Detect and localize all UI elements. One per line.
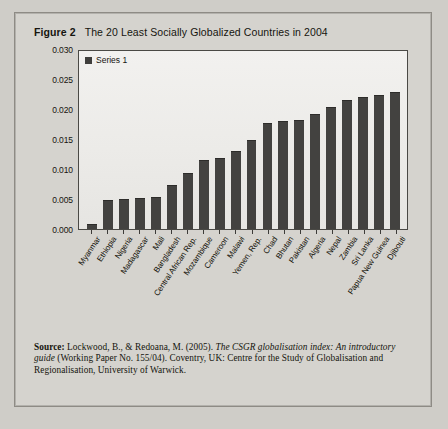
bar-group — [79, 51, 407, 229]
x-axis-tick — [300, 230, 301, 234]
bar[interactable] — [199, 160, 209, 229]
x-axis-tick — [364, 230, 365, 234]
bar-cell[interactable] — [212, 51, 228, 229]
y-axis-tick-label: 0.025 — [52, 75, 73, 85]
bar[interactable] — [326, 107, 336, 229]
bar[interactable] — [358, 97, 368, 229]
bar[interactable] — [135, 198, 145, 229]
x-axis-tick — [235, 230, 236, 234]
bar[interactable] — [390, 92, 400, 229]
figure-caption: Figure 2The 20 Least Socially Globalized… — [34, 26, 328, 38]
bar[interactable] — [231, 151, 241, 229]
legend-swatch-icon — [85, 57, 92, 64]
x-axis-tick — [91, 230, 92, 234]
bar-cell[interactable] — [259, 51, 275, 229]
bar-cell[interactable] — [387, 51, 403, 229]
bar-cell[interactable] — [339, 51, 355, 229]
y-axis-tick-label: 0.020 — [52, 105, 73, 115]
x-axis-tick — [123, 230, 124, 234]
x-axis-tick — [348, 230, 349, 234]
source-label: Source: — [34, 342, 65, 352]
figure-number: Figure 2 — [34, 26, 76, 38]
bar-cell[interactable] — [291, 51, 307, 229]
bar[interactable] — [247, 140, 257, 229]
x-axis-tick — [187, 230, 188, 234]
bar[interactable] — [263, 123, 273, 229]
x-axis-tick — [396, 230, 397, 234]
bar[interactable] — [310, 114, 320, 229]
x-axis-tick — [268, 230, 269, 234]
bar[interactable] — [151, 197, 161, 229]
y-axis-tick-label: 0.000 — [52, 225, 73, 235]
x-axis-tick — [203, 230, 204, 234]
y-axis-tick-label: 0.015 — [52, 135, 73, 145]
legend-series-label: Series 1 — [96, 55, 127, 65]
y-axis-labels: 0.0000.0050.0100.0150.0200.0250.030 — [34, 49, 76, 230]
bar-cell[interactable] — [180, 51, 196, 229]
bar-cell[interactable] — [164, 51, 180, 229]
figure-caption-text: The 20 Least Socially Globalized Countri… — [85, 26, 328, 38]
source-note: Source: Lockwood, B., & Redoana, M. (200… — [34, 342, 416, 376]
bar[interactable] — [183, 173, 193, 229]
source-line1-italic: The CSGR globalisation index: — [216, 342, 334, 352]
bar[interactable] — [167, 185, 177, 229]
bar[interactable] — [87, 224, 97, 229]
bar-cell[interactable] — [244, 51, 260, 229]
bar[interactable] — [294, 120, 304, 229]
bar[interactable] — [215, 158, 225, 229]
bar-cell[interactable] — [132, 51, 148, 229]
bar-cell[interactable] — [100, 51, 116, 229]
bar-cell[interactable] — [355, 51, 371, 229]
bar[interactable] — [342, 100, 352, 229]
bar-cell[interactable] — [371, 51, 387, 229]
bar[interactable] — [119, 199, 129, 229]
bar-cell[interactable] — [307, 51, 323, 229]
x-axis-tick — [316, 230, 317, 234]
bar[interactable] — [374, 95, 384, 229]
bar-cell[interactable] — [323, 51, 339, 229]
y-axis-tick-label: 0.005 — [52, 195, 73, 205]
figure-container: Figure 2The 20 Least Socially Globalized… — [14, 12, 432, 407]
bar-chart: 0.0000.0050.0100.0150.0200.0250.030 Seri… — [34, 49, 412, 337]
bar-cell[interactable] — [196, 51, 212, 229]
source-line2-plain: (Working Paper No. 155/04). Coventry, UK… — [57, 353, 279, 363]
x-axis-tick — [171, 230, 172, 234]
x-axis-tick — [139, 230, 140, 234]
bar[interactable] — [103, 200, 113, 229]
y-axis-tick-label: 0.010 — [52, 165, 73, 175]
bar-cell[interactable] — [148, 51, 164, 229]
plot-area: Series 1 — [78, 50, 408, 230]
figure-inner-panel: Figure 2The 20 Least Socially Globalized… — [16, 14, 430, 405]
y-axis-tick-label: 0.030 — [52, 45, 73, 55]
x-axis-tick — [332, 230, 333, 234]
x-axis-tick — [155, 230, 156, 234]
bar-cell[interactable] — [228, 51, 244, 229]
x-axis-labels: MyanmarEthiopiaNigeriaMadagascarMaliBang… — [78, 235, 408, 335]
chart-legend: Series 1 — [85, 55, 127, 65]
source-line1-plain: Lockwood, B., & Redoana, M. (2005). — [65, 342, 216, 352]
bar-cell[interactable] — [84, 51, 100, 229]
bar-cell[interactable] — [275, 51, 291, 229]
bar-cell[interactable] — [116, 51, 132, 229]
x-axis-tick — [284, 230, 285, 234]
x-axis-tick — [252, 230, 253, 234]
bar[interactable] — [278, 121, 288, 229]
x-axis-tick — [219, 230, 220, 234]
x-axis-tick — [380, 230, 381, 234]
x-axis-tick — [107, 230, 108, 234]
